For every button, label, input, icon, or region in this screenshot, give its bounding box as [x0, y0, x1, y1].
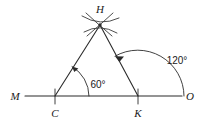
angle-label-60: 60°	[90, 79, 105, 90]
point-label-C: C	[51, 107, 59, 119]
point-label-O: O	[186, 90, 194, 102]
diagram-canvas: M O C K H 60° 120°	[0, 0, 201, 126]
angle-arrow-120-icon	[115, 56, 124, 62]
geometry-figure: M O C K H 60° 120°	[0, 0, 201, 126]
compass-arc-left-icon	[82, 16, 119, 22]
point-label-K: K	[133, 107, 142, 119]
compass-arc-right-icon	[84, 28, 117, 33]
angle-arrow-60-icon	[72, 67, 78, 72]
point-label-H: H	[95, 3, 105, 15]
angle-label-120: 120°	[167, 55, 188, 66]
point-label-M: M	[9, 90, 20, 102]
apex-point-H	[98, 23, 101, 26]
